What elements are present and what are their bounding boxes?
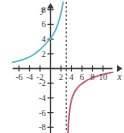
axis-label-group: yx <box>40 5 123 83</box>
y-tick-label: -8 <box>39 122 46 132</box>
x-tick-label: 10 <box>99 72 108 82</box>
x-tick-label-group: -6-4-2246810 <box>15 72 107 82</box>
y-tick-label: 6 <box>42 19 47 29</box>
y-axis-label: y <box>40 5 46 15</box>
y-axis-arrow-icon <box>47 3 54 9</box>
x-axis-label: x <box>116 72 122 82</box>
x-tick-label: 6 <box>80 72 85 82</box>
x-axis-arrow-icon <box>117 65 123 72</box>
curves-group <box>13 2 113 133</box>
blue-curve <box>13 2 63 62</box>
y-tick-label: -6 <box>39 108 47 118</box>
x-tick-label: 4 <box>69 72 74 82</box>
y-tick-label: -4 <box>39 93 47 103</box>
x-tick-label: -4 <box>26 72 34 82</box>
graph-figure: -6-4-2246810 8642-2-4-6-8 yx <box>0 0 124 133</box>
y-tick-label: 4 <box>42 34 47 44</box>
y-tick-label: -2 <box>39 78 46 88</box>
y-tick-label: 2 <box>42 49 46 59</box>
x-tick-label: -6 <box>15 72 23 82</box>
coordinate-plane-svg: -6-4-2246810 8642-2-4-6-8 yx <box>0 0 124 133</box>
x-tick-label: 2 <box>59 72 63 82</box>
x-tick-label: 8 <box>90 72 94 82</box>
